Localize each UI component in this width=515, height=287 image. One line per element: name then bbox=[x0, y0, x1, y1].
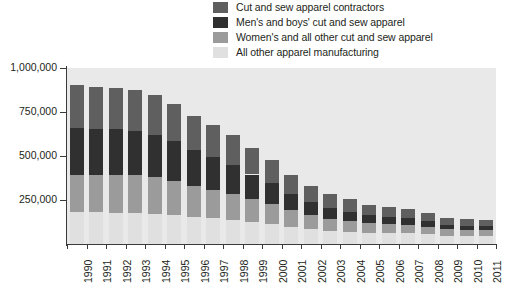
x-axis-tick bbox=[184, 244, 185, 249]
x-axis-tick-label: 2008 bbox=[433, 260, 445, 283]
x-axis-tick-label: 1993 bbox=[140, 260, 152, 283]
x-axis-tick-label: 2007 bbox=[413, 260, 425, 283]
apparel-employment-stacked-bar-chart: Cut and sew apparel contractorsMen's and… bbox=[0, 0, 515, 287]
x-axis-tick bbox=[145, 244, 146, 249]
x-axis-tick-label: 2005 bbox=[374, 260, 386, 283]
x-axis-tick bbox=[418, 244, 419, 249]
x-axis-tick-label: 1990 bbox=[82, 260, 94, 283]
x-axis-tick bbox=[106, 244, 107, 249]
x-axis-tick bbox=[379, 244, 380, 249]
x-axis-tick bbox=[477, 244, 478, 249]
x-axis-tick-label: 2011 bbox=[491, 260, 503, 283]
x-axis-tick bbox=[399, 244, 400, 249]
x-axis-tick-label: 1991 bbox=[101, 260, 113, 283]
x-axis-tick bbox=[87, 244, 88, 249]
x-axis-tick-label: 2006 bbox=[394, 260, 406, 283]
x-axis-tick bbox=[126, 244, 127, 249]
x-axis-tick bbox=[282, 244, 283, 249]
x-axis-tick bbox=[360, 244, 361, 249]
x-axis-tick bbox=[67, 244, 68, 249]
x-axis-tick-label: 1996 bbox=[199, 260, 211, 283]
x-axis-tick bbox=[223, 244, 224, 249]
x-axis-tick-label: 1997 bbox=[218, 260, 230, 283]
x-axis-tick-label: 2010 bbox=[472, 260, 484, 283]
y-axis-tick bbox=[60, 68, 67, 69]
x-axis-tick-label: 2000 bbox=[277, 260, 289, 283]
y-axis-tick bbox=[60, 112, 67, 113]
x-axis-tick bbox=[165, 244, 166, 249]
x-axis-tick bbox=[340, 244, 341, 249]
x-axis-tick-label: 2002 bbox=[316, 260, 328, 283]
x-axis-tick bbox=[204, 244, 205, 249]
x-axis-tick bbox=[301, 244, 302, 249]
x-axis-tick-label: 2001 bbox=[296, 260, 308, 283]
x-axis-tick bbox=[457, 244, 458, 249]
x-axis-tick-label: 1999 bbox=[257, 260, 269, 283]
x-axis-tick bbox=[262, 244, 263, 249]
x-axis-tick-label: 1992 bbox=[121, 260, 133, 283]
x-axis-tick bbox=[438, 244, 439, 249]
x-axis-tick-label: 2009 bbox=[452, 260, 464, 283]
y-axis-tick bbox=[60, 200, 67, 201]
x-axis-tick-label: 1994 bbox=[160, 260, 172, 283]
x-axis-tick bbox=[243, 244, 244, 249]
x-axis-tick-label: 2004 bbox=[355, 260, 367, 283]
x-axis-tick-label: 1998 bbox=[238, 260, 250, 283]
x-axis-tick bbox=[321, 244, 322, 249]
y-axis-tick bbox=[60, 156, 67, 157]
x-axis-tick-label: 1995 bbox=[179, 260, 191, 283]
x-axis-tick-label: 2003 bbox=[335, 260, 347, 283]
x-axis-tick bbox=[496, 244, 497, 249]
